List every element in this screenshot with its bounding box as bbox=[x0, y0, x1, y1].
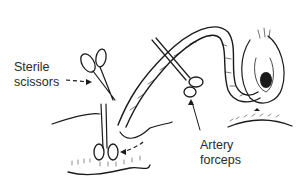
illustration: Sterile scissors Artery forceps bbox=[0, 0, 297, 187]
scissors-icon bbox=[78, 48, 115, 100]
scissors-label: Sterile scissors bbox=[14, 60, 59, 90]
perineum bbox=[228, 28, 292, 127]
forceps-label-line1: Artery bbox=[200, 138, 241, 153]
forceps-label-line2: forceps bbox=[200, 153, 241, 168]
scissors-label-line1: Sterile bbox=[14, 60, 59, 75]
forceps-label: Artery forceps bbox=[200, 138, 241, 168]
cord-clamping-drawing bbox=[0, 0, 297, 187]
forceps-upper-icon bbox=[152, 38, 203, 97]
leader-lines bbox=[66, 79, 200, 155]
forceps-lower-icon bbox=[94, 104, 118, 160]
scissors-label-line2: scissors bbox=[14, 75, 59, 90]
